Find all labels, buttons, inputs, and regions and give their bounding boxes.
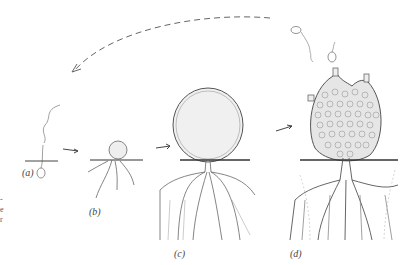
caption-fragment: - [0,195,4,205]
released-zoospores [291,27,336,63]
life-cycle-diagram [0,0,417,265]
stage-label-c: (c) [174,248,185,259]
stage-c-sporangium [160,88,255,240]
cropped-caption-text: - e r [0,195,4,225]
stage-label-b: (b) [89,206,101,217]
caption-fragment: e [0,205,4,215]
stage-d-mature-sporangium [290,68,398,240]
stage-b-thallus [88,141,143,198]
cycle-return-arrow [75,17,270,70]
caption-fragment: r [0,215,4,225]
stage-label-a: (a) [22,167,34,178]
stage-label-d: (d) [290,248,302,259]
